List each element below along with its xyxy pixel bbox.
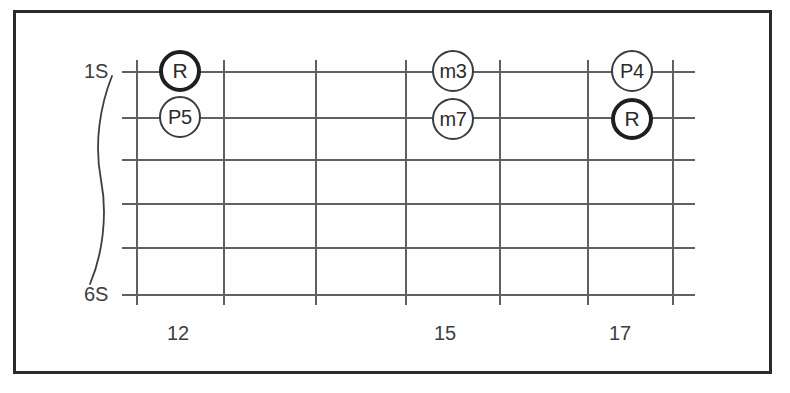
marker-root-string1-fret12[interactable]: R bbox=[159, 50, 201, 92]
marker-label: R bbox=[173, 60, 188, 81]
string-line-5 bbox=[122, 247, 695, 249]
string-label-bottom: 6S bbox=[84, 283, 108, 306]
fretboard-grid: 1S 6S R P5 m3 m7 P4 R 12 15 17 bbox=[0, 0, 790, 393]
fretboard-diagram: 1S 6S R P5 m3 m7 P4 R 12 15 17 bbox=[0, 0, 790, 393]
string-line-1 bbox=[122, 71, 695, 73]
fret-line-4 bbox=[405, 60, 407, 305]
fret-line-1 bbox=[136, 60, 138, 305]
fret-number-12: 12 bbox=[158, 322, 198, 345]
string-label-top: 1S bbox=[84, 60, 108, 83]
marker-label: m3 bbox=[439, 61, 466, 81]
fret-line-2 bbox=[223, 60, 225, 305]
marker-label: m7 bbox=[439, 109, 466, 129]
fret-line-5 bbox=[499, 60, 501, 305]
marker-p4-string1-fret17[interactable]: P4 bbox=[611, 50, 653, 92]
marker-m7-string2-fret15[interactable]: m7 bbox=[432, 98, 474, 140]
marker-p5-string2-fret12[interactable]: P5 bbox=[159, 96, 201, 138]
string-line-3 bbox=[122, 159, 695, 161]
string-line-4 bbox=[122, 203, 695, 205]
fret-line-3 bbox=[315, 60, 317, 305]
fret-line-7 bbox=[672, 60, 674, 305]
marker-label: R bbox=[625, 108, 640, 129]
string-line-2 bbox=[122, 117, 695, 119]
string-range-brace bbox=[88, 74, 122, 286]
marker-label: P4 bbox=[620, 61, 644, 81]
fret-number-15: 15 bbox=[425, 322, 465, 345]
marker-root-string2-fret17[interactable]: R bbox=[611, 98, 653, 140]
fret-number-17: 17 bbox=[600, 322, 640, 345]
marker-label: P5 bbox=[168, 107, 192, 127]
marker-m3-string1-fret15[interactable]: m3 bbox=[432, 50, 474, 92]
fret-line-6 bbox=[587, 60, 589, 305]
string-line-6 bbox=[122, 294, 695, 296]
